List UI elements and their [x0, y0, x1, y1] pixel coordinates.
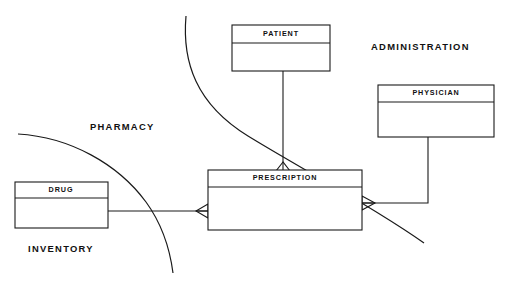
entity-prescription-label: PRESCRIPTION: [253, 173, 318, 182]
subject-area-label-inventory: INVENTORY: [28, 243, 94, 254]
subject-area-label-administration: ADMINISTRATION: [371, 41, 470, 52]
entity-drug[interactable]: DRUG: [15, 182, 108, 228]
diagram-svg: PATIENT PHYSICIAN PRESCRIPTION DRUG PHAR…: [0, 0, 506, 287]
crows-foot-icon-physician-prescription: [362, 196, 375, 210]
entity-patient[interactable]: PATIENT: [232, 25, 330, 71]
er-diagram-canvas: PATIENT PHYSICIAN PRESCRIPTION DRUG PHAR…: [0, 0, 506, 287]
entity-physician-label: PHYSICIAN: [412, 88, 459, 97]
entity-prescription[interactable]: PRESCRIPTION: [208, 170, 362, 230]
entity-patient-label: PATIENT: [263, 29, 299, 38]
subject-area-boundaries: [18, 16, 424, 273]
relationship-physician-prescription[interactable]: [362, 137, 428, 203]
subject-area-label-pharmacy: PHARMACY: [90, 121, 155, 132]
crows-foot-icon-drug-prescription: [196, 204, 208, 218]
entity-drug-label: DRUG: [49, 185, 74, 194]
entity-physician[interactable]: PHYSICIAN: [378, 85, 494, 137]
